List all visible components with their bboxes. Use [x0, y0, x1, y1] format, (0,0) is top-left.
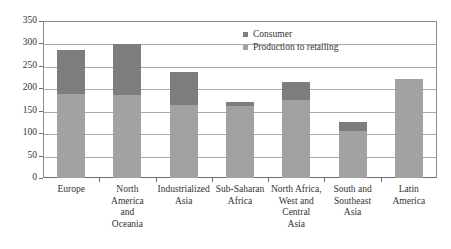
x-axis-labels: EuropeNorthAmericaandOceaniaIndustrializ…	[43, 184, 437, 246]
x-axis-label-line: North Africa,	[268, 184, 324, 196]
bar-group	[226, 102, 254, 178]
bar-segment-consumer	[170, 72, 198, 105]
legend-swatch-icon	[243, 45, 248, 50]
x-axis-label-line: Oceania	[99, 219, 155, 231]
x-axis-label-line: Industrialized	[156, 184, 212, 196]
x-axis-label: South andSoutheastAsia	[325, 184, 381, 219]
bar-segment-production	[339, 131, 367, 178]
bar-segment-consumer	[113, 44, 141, 95]
x-axis-label: Europe	[43, 184, 99, 196]
x-axis-label-line: America	[99, 196, 155, 208]
bar-segment-production	[282, 100, 310, 178]
legend-label: Consumer	[253, 28, 292, 41]
x-tick-mark	[156, 178, 157, 182]
x-axis-label-line: South and	[325, 184, 381, 196]
bar-segment-production	[170, 105, 198, 178]
x-tick-mark	[99, 178, 100, 182]
y-tick-label: 300	[3, 38, 37, 48]
x-axis-label-line: West and	[268, 196, 324, 208]
y-tick-label: 350	[3, 16, 37, 26]
bar-group	[395, 79, 423, 178]
x-tick-mark	[212, 178, 213, 182]
y-tick-mark	[39, 178, 43, 179]
bars-layer	[43, 21, 437, 178]
bar-segment-production	[57, 94, 85, 178]
y-tick-label: 150	[3, 106, 37, 116]
bar-segment-consumer	[339, 122, 367, 131]
y-tick-label: 100	[3, 128, 37, 138]
y-tick-label: 50	[3, 151, 37, 161]
x-axis-label-line: Sub-Saharan	[212, 184, 268, 196]
x-axis-label-line: Southeast	[325, 196, 381, 208]
bar-group	[339, 122, 367, 178]
x-axis-label: Sub-SaharanAfrica	[212, 184, 268, 207]
bar-group	[113, 44, 141, 178]
bar-segment-production	[226, 106, 254, 178]
legend-swatch-icon	[243, 32, 248, 37]
x-axis-label-line: and	[99, 207, 155, 219]
x-axis-label-line: Asia	[268, 219, 324, 231]
legend-item: Production to retailing	[243, 41, 339, 54]
x-axis-label-line: Africa	[212, 196, 268, 208]
x-tick-mark	[381, 178, 382, 182]
bar-segment-consumer	[282, 82, 310, 100]
x-axis-label: LatinAmerica	[381, 184, 437, 207]
x-axis-label-line: North	[99, 184, 155, 196]
x-axis-label-line: Central	[268, 207, 324, 219]
x-axis-label-line: Asia	[325, 207, 381, 219]
y-tick-label: 250	[3, 61, 37, 71]
x-axis-label: North Africa,West andCentralAsia	[268, 184, 324, 230]
bar-segment-production	[113, 95, 141, 178]
x-axis-label: IndustrializedAsia	[156, 184, 212, 207]
stacked-bar-chart: 050100150200250300350 EuropeNorthAmerica…	[0, 0, 451, 249]
bottom-rule	[0, 247, 451, 248]
bar-group	[57, 50, 85, 178]
x-axis-label-line: Latin	[381, 184, 437, 196]
y-tick-label: 200	[3, 83, 37, 93]
bar-group	[170, 72, 198, 178]
legend-label: Production to retailing	[253, 41, 339, 54]
x-tick-mark	[324, 178, 325, 182]
x-axis-label-line: Europe	[43, 184, 99, 196]
x-axis-label-line: America	[381, 196, 437, 208]
y-tick-label: 0	[3, 173, 37, 183]
bar-segment-production	[395, 79, 423, 178]
x-tick-mark	[268, 178, 269, 182]
x-axis-label-line: Asia	[156, 196, 212, 208]
chart-legend: ConsumerProduction to retailing	[243, 28, 339, 54]
bar-segment-consumer	[57, 50, 85, 94]
bar-group	[282, 82, 310, 178]
x-axis-label: NorthAmericaandOceania	[99, 184, 155, 230]
legend-item: Consumer	[243, 28, 339, 41]
